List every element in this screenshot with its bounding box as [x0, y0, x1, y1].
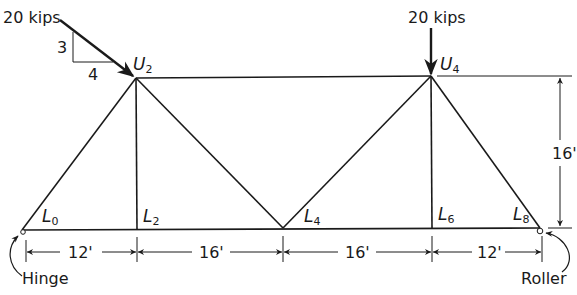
vertical-dimension-label: 16': [552, 144, 577, 163]
node-label-U2: U2: [133, 54, 152, 76]
node-label-U4: U4: [440, 54, 459, 76]
bottom-chord: [22, 228, 540, 230]
slope-run-label: 4: [88, 65, 98, 84]
roller-support-icon: [537, 228, 543, 234]
truss-members: [22, 76, 540, 230]
member-L0-U2: [22, 78, 136, 230]
hinge-leader-arrow: [10, 236, 22, 276]
node-label-L4: L4: [304, 206, 320, 228]
dimension-ticks: [26, 236, 542, 262]
load-U2-label: 20 kips: [3, 8, 61, 27]
node-label-L6: L6: [438, 204, 454, 226]
roller-leader-arrow: [546, 233, 569, 272]
node-label-L0: L0: [42, 206, 58, 228]
dimension-label-span-3: 16': [345, 243, 370, 262]
roller-label: Roller: [521, 269, 567, 288]
hinge-label: Hinge: [22, 269, 69, 288]
hinge-support-icon: [21, 230, 26, 235]
node-label-L2: L2: [143, 206, 159, 228]
dimension-label-span-1: 12': [68, 243, 93, 262]
member-U2-L4: [136, 78, 283, 228]
dimension-label-span-4: 12': [477, 243, 502, 262]
top-chord-U2-U4: [136, 76, 431, 78]
load-U4-label: 20 kips: [408, 8, 466, 27]
node-label-L8: L8: [513, 204, 529, 226]
slope-rise-label: 3: [57, 38, 67, 57]
dimension-label-span-2: 16': [199, 243, 224, 262]
member-U4-L6: [431, 76, 432, 228]
truss-diagram: 16' 20 kips 3 4 20 kips U2 U4 L0 L2 L4 L…: [0, 0, 577, 295]
load-U2: 20 kips 3 4: [3, 8, 133, 84]
member-U2-L2: [136, 78, 137, 230]
